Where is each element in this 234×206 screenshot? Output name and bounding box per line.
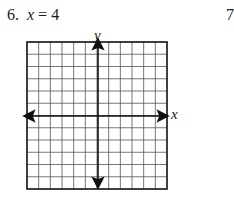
y-axis <box>93 39 103 188</box>
y-axis-label: y <box>94 27 101 44</box>
x-axis <box>24 111 168 121</box>
coordinate-grid <box>0 0 234 206</box>
x-axis-label: x <box>171 106 178 123</box>
y-axis-down-arrow-icon <box>93 178 103 188</box>
x-axis-left-arrow-icon <box>24 111 34 121</box>
